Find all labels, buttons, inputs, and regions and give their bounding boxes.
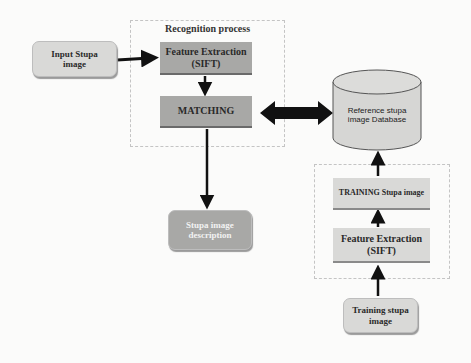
feature-extraction-node: Feature Extraction (SIFT) [160,42,252,75]
arrow-input-to-feature [117,58,150,60]
training-feature-extraction-node: Feature Extraction (SIFT) [333,228,430,263]
double-arrow-matching-database [260,101,333,125]
input-stupa-image-node: Input Stupa image [32,41,117,77]
stupa-description-node: Stupa image description [168,210,252,250]
training-stupa-node: TRAINING Stupa image [333,178,430,210]
reference-database-label: Reference stupa image Database [335,98,419,132]
matching-node: MATCHING [160,96,252,128]
training-stupa-image-node: Training stupa image [343,298,418,333]
